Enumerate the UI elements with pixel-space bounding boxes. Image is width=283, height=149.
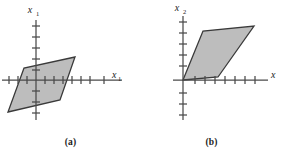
figure-panel-b: x 2 x (b) — [141, 0, 282, 149]
x-axis-label-b: x — [270, 69, 276, 80]
y-axis-label-sub-b: 2 — [183, 8, 186, 15]
parallelogram-a — [8, 57, 75, 112]
y-axis-label-b: x — [174, 2, 180, 13]
figure-panel-a: x 1 x 1 (a) — [0, 0, 141, 149]
plot-b: x 2 x — [141, 0, 282, 130]
y-axis-label-sub-a: 1 — [36, 10, 39, 17]
x-axis-label-sub-a: 1 — [118, 75, 121, 82]
caption-b: (b) — [141, 137, 282, 147]
x-axis-label-a: x — [111, 69, 117, 80]
caption-a: (a) — [0, 137, 141, 147]
y-axis-label-a: x — [27, 4, 33, 15]
parallelogram-b — [183, 26, 254, 80]
figure-root: x 1 x 1 (a) — [0, 0, 283, 149]
plot-a: x 1 x 1 — [0, 0, 141, 130]
